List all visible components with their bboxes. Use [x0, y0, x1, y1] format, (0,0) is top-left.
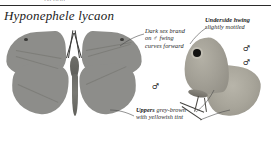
annotation-underside-hwing: Underside hwing slightly mottled	[205, 16, 269, 31]
annotation-uppers-lead: Uppers	[136, 106, 155, 113]
male-symbol-upperside: ♂	[152, 82, 159, 91]
leader-to-sex-brand	[120, 34, 144, 46]
leader-to-underside-hwing	[190, 28, 206, 44]
annotation-dark-sex-brand: Dark sex brand on ♂ fwing curves forward	[145, 27, 189, 49]
male-symbol-underside-upper: ♂	[243, 44, 250, 53]
annotation-underside-hwing-lead: Underside hwing	[205, 16, 250, 23]
field-guide-plate: lycaon Hyponephele lycaon	[0, 0, 271, 141]
leader-to-uppers-lower	[200, 110, 230, 120]
annotation-uppers-colour: Uppers grey-brown with yellowish tint	[136, 106, 196, 121]
male-symbol-underside-lower: ♂	[243, 58, 250, 67]
leader-to-uppers-right	[196, 90, 214, 112]
leader-to-uppers-left	[110, 110, 134, 116]
